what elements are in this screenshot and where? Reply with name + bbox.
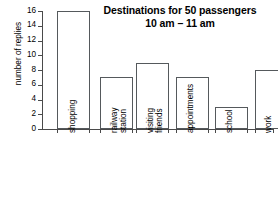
x-label-railway-station-line2: station [119, 108, 128, 133]
x-label-visiting-friends-line1: visiting [146, 108, 155, 133]
y-axis-label: number of replies [14, 2, 23, 106]
bar-chart: Destinations for 50 passengers 10 am – 1… [0, 0, 278, 207]
x-label-work: work [264, 116, 273, 133]
x-label-visiting-friends: visiting friends [146, 108, 164, 133]
x-label-shopping: shopping [68, 100, 77, 133]
x-label-visiting-friends-line2: friends [155, 108, 164, 133]
y-tick-label-14: 14 [27, 20, 36, 30]
x-tick-5 [168, 129, 169, 133]
x-tick-4 [136, 129, 137, 133]
x-label-railway-station-line1: railway [110, 108, 119, 133]
y-tick-label-4: 4 [31, 94, 36, 104]
x-tick-10 [255, 129, 256, 133]
y-tick-4: 8 [38, 70, 42, 71]
x-tick-2 [100, 129, 101, 133]
y-tick-0: 0 [38, 129, 42, 130]
y-tick-8: 16 [38, 11, 42, 12]
x-tick-8 [215, 129, 216, 133]
y-tick-1: 2 [38, 114, 42, 115]
x-tick-0 [57, 129, 58, 133]
x-label-railway-station: railway station [110, 108, 128, 133]
y-tick-3: 6 [38, 85, 42, 86]
x-label-school: school [225, 109, 234, 133]
y-tick-label-0: 0 [31, 124, 36, 134]
x-tick-9 [247, 129, 248, 133]
y-tick-7: 14 [38, 26, 42, 27]
y-tick-5: 10 [38, 55, 42, 56]
y-axis-line [42, 11, 43, 129]
y-tick-label-6: 6 [31, 79, 36, 89]
y-tick-label-2: 2 [31, 109, 36, 119]
y-tick-6: 12 [38, 41, 42, 42]
y-tick-label-8: 8 [31, 65, 36, 75]
x-label-appointments: appointments [186, 84, 195, 133]
y-tick-label-16: 16 [27, 6, 36, 16]
x-tick-7 [208, 129, 209, 133]
x-tick-3 [132, 129, 133, 133]
x-tick-1 [89, 129, 90, 133]
y-tick-label-12: 12 [27, 35, 36, 45]
x-tick-6 [176, 129, 177, 133]
y-tick-2: 4 [38, 100, 42, 101]
y-tick-label-10: 10 [27, 50, 36, 60]
